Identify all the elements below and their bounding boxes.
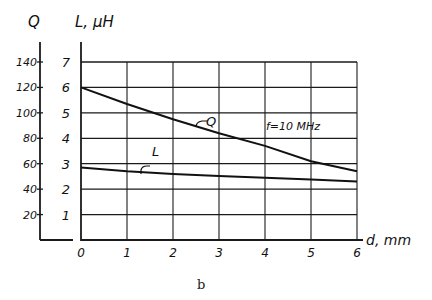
l-tick-label: 3 (62, 157, 70, 172)
q-axis-title: Q (28, 13, 40, 31)
q-tick-label: 120 (16, 81, 37, 94)
l-tick-label: 6 (62, 80, 70, 95)
x-tick-label: 6 (353, 246, 361, 260)
q-tick-label: 20 (23, 209, 37, 222)
l-tick-label: 7 (62, 55, 71, 70)
q-tick-label: 80 (23, 132, 37, 145)
chart-figure: QL, μHd, mm12345672040608010012014001234… (0, 0, 432, 300)
l-tick-label: 2 (62, 182, 70, 197)
l-tick-label: 5 (62, 106, 70, 121)
l-tick-label: 4 (62, 131, 70, 146)
x-axis-title: d, mm (366, 232, 411, 248)
x-tick-label: 1 (123, 246, 131, 260)
x-tick-label: 0 (77, 246, 85, 260)
q-tick-label: 60 (23, 158, 37, 171)
x-tick-label: 5 (307, 246, 315, 260)
q-tick-label: 100 (16, 107, 37, 120)
l-axis-title: L, μH (75, 13, 114, 31)
q-tick-label: 140 (16, 56, 37, 69)
figure-caption: b (197, 277, 205, 292)
q-tick-label: 40 (23, 183, 37, 196)
l-curve-label: L (152, 144, 159, 159)
q-curve-label: Q (206, 114, 216, 129)
x-tick-label: 3 (215, 246, 223, 260)
frequency-annotation: f=10 MHz (266, 120, 320, 133)
x-tick-label: 2 (169, 246, 177, 260)
x-tick-label: 4 (261, 246, 269, 260)
l-tick-label: 1 (62, 208, 70, 223)
